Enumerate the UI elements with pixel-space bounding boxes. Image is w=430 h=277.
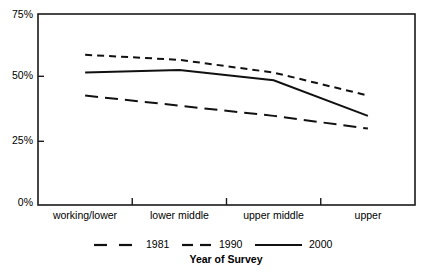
series-group [85, 55, 368, 129]
x-tick-label-lower-middle: lower middle [150, 209, 209, 221]
y-tick-label-25: 25% [12, 134, 33, 146]
x-axis-ticks [132, 198, 321, 205]
x-axis-title: Year of Survey [190, 253, 263, 265]
x-tick-label-upper-middle: upper middle [243, 209, 304, 221]
legend-label-2000: 2000 [309, 238, 333, 250]
legend-label-1981: 1981 [146, 238, 170, 250]
y-tick-label-50: 50% [12, 69, 33, 81]
line-chart-figure: 75% 50% 25% 0% working/lower lower middl… [0, 0, 430, 277]
x-axis-labels: working/lower lower middle upper middle … [52, 209, 382, 221]
chart-canvas: 75% 50% 25% 0% working/lower lower middl… [0, 0, 430, 277]
plot-frame [38, 14, 415, 205]
legend-label-1990: 1990 [219, 238, 243, 250]
series-line-2000 [85, 70, 368, 116]
x-tick-label-working-lower: working/lower [52, 209, 118, 221]
y-axis-ticks [38, 76, 44, 141]
chart-legend: 1981 1990 2000 [94, 238, 333, 250]
y-tick-label-0: 0% [18, 196, 33, 208]
x-tick-label-upper: upper [355, 209, 382, 221]
y-axis-labels: 75% 50% 25% 0% [12, 8, 33, 208]
y-tick-label-75: 75% [12, 8, 33, 20]
